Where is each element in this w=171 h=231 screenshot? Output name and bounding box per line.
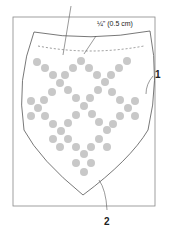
leader-line-1 bbox=[146, 76, 153, 94]
leader-line-2 bbox=[99, 180, 107, 210]
seam-allowance-label: ¼" (0.5 cm) bbox=[97, 20, 133, 27]
leader-line-top bbox=[63, 6, 71, 55]
callout-2: 2 bbox=[104, 216, 110, 227]
leader-line-measure bbox=[84, 36, 96, 54]
callout-1: 1 bbox=[155, 69, 161, 80]
seam-line bbox=[38, 46, 144, 51]
fabric-frame bbox=[13, 17, 155, 206]
pattern-diagram bbox=[0, 0, 171, 231]
